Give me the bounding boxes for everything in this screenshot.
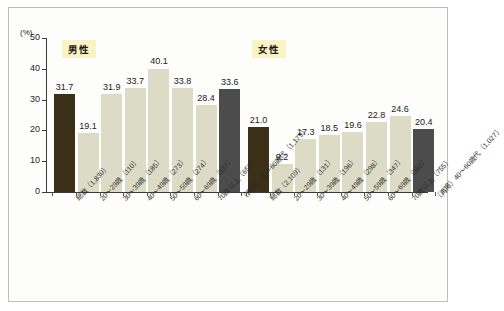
y-axis-tick-mark (42, 192, 47, 193)
bar-value-label: 31.7 (47, 82, 82, 92)
bar-value-label: 19.1 (71, 121, 106, 131)
bar-value-label: 33.6 (212, 77, 247, 87)
bar-value-label: 24.6 (383, 104, 418, 114)
bar-value-label: 28.4 (189, 93, 224, 103)
bar-value-label: 19.6 (335, 120, 370, 130)
bar-value-label: 33.8 (165, 76, 200, 86)
bar (54, 94, 75, 192)
bar-value-label: 20.4 (406, 117, 441, 127)
x-axis-tick-mark (52, 192, 53, 196)
bar-value-label: 40.1 (141, 56, 176, 66)
bar-value-label: 33.7 (118, 76, 153, 86)
bar-value-label: 21.0 (241, 115, 276, 125)
